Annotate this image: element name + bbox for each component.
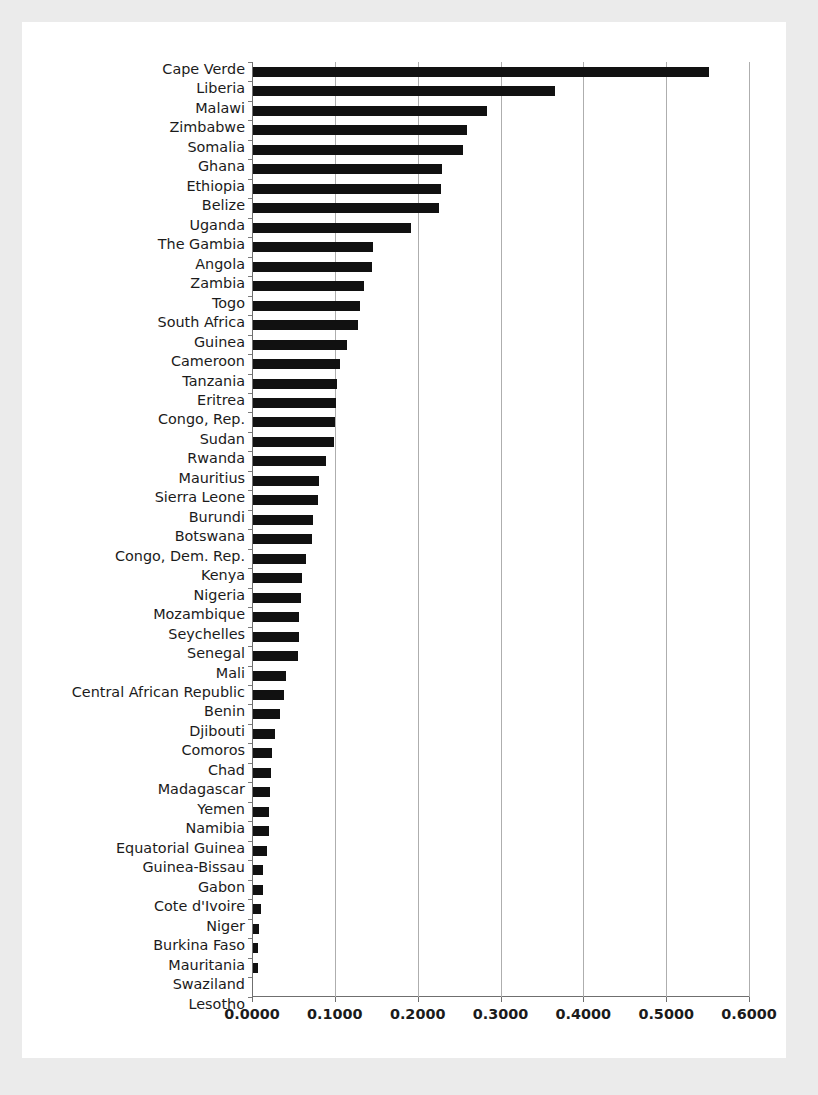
bar-row: Senegal	[252, 646, 749, 665]
bar-row: Sierra Leone	[252, 490, 749, 509]
y-tick-mark	[248, 62, 252, 63]
bar	[253, 417, 335, 427]
category-label: The Gambia	[158, 235, 245, 254]
bar	[253, 515, 313, 525]
bar-row: Malawi	[252, 101, 749, 120]
bar-row: Seychelles	[252, 627, 749, 646]
bar-row: Zambia	[252, 276, 749, 295]
y-tick-mark	[248, 899, 252, 900]
y-tick-mark	[248, 568, 252, 569]
y-tick-mark	[248, 958, 252, 959]
category-label: Yemen	[197, 800, 245, 819]
category-label: Guinea-Bissau	[142, 858, 245, 877]
y-tick-mark	[248, 296, 252, 297]
category-label: Burundi	[189, 508, 245, 527]
bar	[253, 573, 302, 583]
bar	[253, 865, 263, 875]
y-tick-mark	[248, 510, 252, 511]
category-label: Congo, Rep.	[158, 410, 245, 429]
bar	[253, 748, 272, 758]
bar	[253, 729, 275, 739]
category-label: Tanzania	[182, 372, 245, 391]
x-tick-label: 0.1000	[307, 1006, 363, 1022]
y-tick-mark	[248, 354, 252, 355]
y-tick-mark	[248, 198, 252, 199]
bar-row: Madagascar	[252, 782, 749, 801]
category-label: South Africa	[158, 313, 245, 332]
category-label: Equatorial Guinea	[116, 839, 245, 858]
bar	[253, 125, 467, 135]
bar	[253, 787, 270, 797]
category-label: Nigeria	[194, 586, 246, 605]
bar	[253, 709, 280, 719]
category-label: Djibouti	[189, 722, 245, 741]
bar-row: Niger	[252, 919, 749, 938]
category-label: Burkina Faso	[153, 936, 245, 955]
y-tick-mark	[248, 549, 252, 550]
bar	[253, 262, 372, 272]
category-label: Zimbabwe	[169, 118, 245, 137]
bar	[253, 963, 258, 973]
category-label: Mali	[216, 664, 245, 683]
bar-row: Namibia	[252, 821, 749, 840]
bar-row: Burkina Faso	[252, 938, 749, 957]
y-tick-mark	[248, 919, 252, 920]
bar-row: Equatorial Guinea	[252, 841, 749, 860]
bar	[253, 67, 709, 77]
bar-row: Mozambique	[252, 607, 749, 626]
bar	[253, 671, 286, 681]
bar	[253, 281, 364, 291]
bar	[253, 846, 267, 856]
y-tick-mark	[248, 685, 252, 686]
bar-row: South Africa	[252, 315, 749, 334]
category-label: Guinea	[194, 333, 245, 352]
y-tick-mark	[248, 666, 252, 667]
bar	[253, 242, 373, 252]
bar-row: Yemen	[252, 802, 749, 821]
x-tick-mark	[335, 997, 336, 1002]
x-tick-label: 0.6000	[721, 1006, 777, 1022]
bar-row: Belize	[252, 198, 749, 217]
y-tick-mark	[248, 627, 252, 628]
category-label: Zambia	[190, 274, 245, 293]
category-label: Ghana	[198, 157, 245, 176]
category-label: Botswana	[175, 527, 245, 546]
bar	[253, 320, 358, 330]
y-tick-mark	[248, 588, 252, 589]
y-tick-mark	[248, 412, 252, 413]
category-label: Mozambique	[153, 605, 245, 624]
category-label: Namibia	[185, 819, 245, 838]
x-tick-label: 0.5000	[638, 1006, 694, 1022]
x-tick-label: 0.3000	[473, 1006, 529, 1022]
y-tick-mark	[248, 159, 252, 160]
y-tick-mark	[248, 529, 252, 530]
bar-row: Togo	[252, 296, 749, 315]
bar-row: Burundi	[252, 510, 749, 529]
x-tick-label: 0.4000	[556, 1006, 612, 1022]
category-label: Congo, Dem. Rep.	[115, 547, 245, 566]
horizontal-bar-chart: Cape VerdeLiberiaMalawiZimbabweSomaliaGh…	[22, 22, 786, 1058]
bar-row: Eritrea	[252, 393, 749, 412]
x-tick-mark	[583, 997, 584, 1002]
bar	[253, 340, 347, 350]
bar-row: Congo, Dem. Rep.	[252, 549, 749, 568]
bar-row: Comoros	[252, 743, 749, 762]
y-tick-mark	[248, 237, 252, 238]
bar	[253, 359, 340, 369]
y-tick-mark	[248, 120, 252, 121]
bar	[253, 164, 442, 174]
y-tick-mark	[248, 451, 252, 452]
bar-row: Kenya	[252, 568, 749, 587]
bar	[253, 904, 261, 914]
bar	[253, 456, 326, 466]
y-tick-mark	[248, 782, 252, 783]
category-label: Central African Republic	[72, 683, 245, 702]
category-label: Somalia	[187, 138, 245, 157]
y-tick-mark	[248, 140, 252, 141]
category-label: Cameroon	[171, 352, 245, 371]
category-label: Mauritania	[168, 956, 245, 975]
y-tick-mark	[248, 179, 252, 180]
category-label: Sudan	[200, 430, 245, 449]
category-label: Liberia	[196, 79, 245, 98]
bar	[253, 495, 318, 505]
